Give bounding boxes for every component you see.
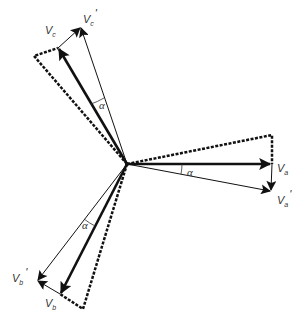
- delta-arrow-b: [38, 281, 60, 294]
- svg-text:Vb': Vb': [12, 266, 28, 286]
- phasor-vc: [59, 49, 127, 164]
- svg-text:Vc': Vc': [83, 7, 98, 27]
- delta-arrow-a: [271, 164, 272, 190]
- dashed-triangle-c: [34, 48, 127, 164]
- phasor-diagram: α α α Va Va' Vb' Vb Vc Vc': [0, 0, 303, 324]
- label-va: Va: [277, 162, 288, 176]
- delta-arrow-c: [58, 28, 80, 48]
- phasor-va-prime: [127, 164, 270, 191]
- svg-text:Vc: Vc: [45, 24, 56, 38]
- dashed-triangle-a: [127, 135, 272, 164]
- svg-text:Vb: Vb: [45, 297, 56, 311]
- label-vc: Vc: [45, 24, 56, 38]
- angle-label-c: α: [99, 99, 105, 111]
- label-vb: Vb: [45, 297, 56, 311]
- angle-label-b: α: [82, 219, 88, 231]
- angle-arc-a: [181, 164, 182, 174]
- label-va-prime: Va': [277, 188, 292, 208]
- angle-label-a: α: [187, 166, 193, 178]
- origin-point: [125, 162, 129, 166]
- label-vb-prime: Vb': [12, 266, 28, 286]
- svg-text:Va: Va: [277, 162, 288, 176]
- label-vc-prime: Vc': [83, 7, 98, 27]
- svg-text:Va': Va': [277, 188, 292, 208]
